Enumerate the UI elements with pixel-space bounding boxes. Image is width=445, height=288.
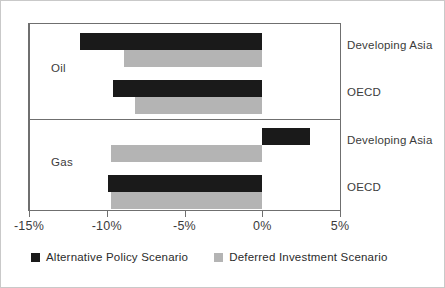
x-tick-mark	[262, 211, 263, 217]
x-tick-mark	[340, 211, 341, 217]
x-tick-mark	[185, 211, 186, 217]
legend-label: Deferred Investment Scenario	[229, 251, 387, 263]
x-tick-label: 5%	[331, 219, 349, 233]
chart-legend: Alternative Policy Scenario Deferred Inv…	[31, 251, 388, 263]
chart-figure: Oil Gas Developing Asia OECD Developing …	[0, 0, 445, 288]
category-label-oil-developing-asia: Developing Asia	[347, 39, 432, 51]
bar-oil-developing-asia-alternative-policy-scenario	[80, 33, 262, 50]
legend-item-deferred-investment-scenario: Deferred Investment Scenario	[214, 251, 387, 263]
plot-area: Oil Gas	[28, 23, 341, 211]
legend-item-alternative-policy-scenario: Alternative Policy Scenario	[31, 251, 188, 263]
x-tick-label: -5%	[173, 219, 196, 233]
group-label-oil: Oil	[51, 62, 66, 74]
x-tick-label: -10%	[92, 219, 122, 233]
group-label-gas: Gas	[51, 156, 73, 168]
group-divider	[29, 119, 340, 120]
bar-gas-oecd-deferred-investment-scenario	[111, 192, 262, 209]
bar-gas-developing-asia-deferred-investment-scenario	[111, 145, 262, 162]
category-label-gas-oecd: OECD	[347, 181, 381, 193]
legend-label: Alternative Policy Scenario	[46, 251, 188, 263]
bar-oil-developing-asia-deferred-investment-scenario	[124, 50, 262, 67]
x-tick-label: 0%	[253, 219, 271, 233]
bar-oil-oecd-deferred-investment-scenario	[135, 97, 263, 114]
legend-swatch-icon	[31, 253, 40, 262]
bar-gas-developing-asia-alternative-policy-scenario	[262, 128, 310, 145]
x-tick-mark	[29, 211, 30, 217]
bar-oil-oecd-alternative-policy-scenario	[113, 80, 262, 97]
category-label-oil-oecd: OECD	[347, 86, 381, 98]
x-tick-label: -15%	[14, 219, 44, 233]
category-label-gas-developing-asia: Developing Asia	[347, 134, 432, 146]
bar-gas-oecd-alternative-policy-scenario	[108, 175, 262, 192]
x-tick-mark	[107, 211, 108, 217]
zero-axis-line	[29, 23, 30, 211]
legend-swatch-icon	[214, 253, 223, 262]
